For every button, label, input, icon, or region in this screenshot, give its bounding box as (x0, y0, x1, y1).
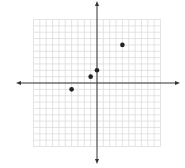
y-axis-bottom-arrow (95, 159, 99, 164)
data-point (95, 68, 100, 73)
x-axis-left-arrow (16, 81, 21, 85)
y-axis-top-arrow (95, 1, 99, 6)
x-axis-right-arrow (175, 81, 180, 85)
data-point (69, 87, 74, 92)
data-point (120, 43, 125, 48)
axes (16, 1, 180, 164)
coordinate-plane (0, 0, 185, 168)
data-point (88, 74, 93, 79)
